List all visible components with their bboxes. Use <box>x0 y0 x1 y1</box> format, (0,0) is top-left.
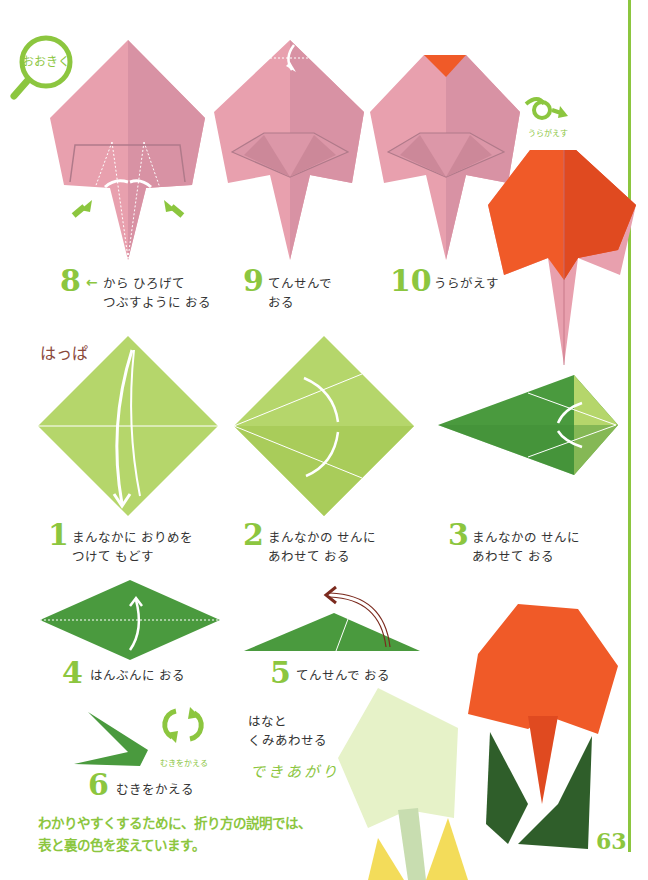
leaf-step-2-text: まんなかの せんに あわせて おる <box>268 528 376 566</box>
step-10-number: 10 <box>390 266 432 296</box>
step-9-number: 9 <box>243 266 264 296</box>
leaf-step-3-diagram <box>438 375 618 475</box>
leaf-step-1-text: まんなかに おりめを つけて もどす <box>72 528 193 566</box>
rotate-icon <box>160 705 210 745</box>
color-note-line-2: 表と裏の色を変えています。 <box>38 834 311 856</box>
leaf-step-3-text: まんなかの せんに あわせて おる <box>472 528 580 566</box>
leaf-step-3-number: 3 <box>448 520 469 550</box>
page-number: 63 <box>596 828 627 854</box>
leaf-step-6-diagram <box>74 712 154 767</box>
leaf-step-1-diagram <box>38 336 218 516</box>
leaf-step-5-text: てんせんで おる <box>296 666 390 685</box>
leaf-step-6-number: 6 <box>88 770 109 800</box>
color-note: わかりやすくするために、折り方の説明では、 表と裏の色を変えています。 <box>38 812 311 856</box>
step-9-text: てんせんで おる <box>268 274 332 312</box>
color-note-line-1: わかりやすくするために、折り方の説明では、 <box>38 812 311 834</box>
rotate-badge-label: むきをかえる <box>160 757 208 768</box>
flip-badge-label: うらがえす <box>528 127 568 138</box>
leaf-step-5-number: 5 <box>270 658 291 688</box>
flip-over-icon <box>522 96 572 122</box>
step-8-number: 8 <box>60 266 81 296</box>
step-8-diagram <box>50 40 210 260</box>
finish-instruction: はなと くみあわせる <box>248 712 327 750</box>
leaf-step-2-diagram <box>234 336 414 516</box>
leaf-step-2-number: 2 <box>243 520 264 550</box>
page-margin-rule <box>628 0 631 852</box>
leaf-step-6-text: むきをかえる <box>116 780 194 799</box>
leaf-step-4-text: はんぶんに おる <box>90 666 185 685</box>
finished-pale-flower <box>338 688 478 880</box>
finish-label: できあがり <box>250 760 340 781</box>
leaf-step-4-number: 4 <box>62 658 83 688</box>
leaf-step-1-number: 1 <box>48 520 69 550</box>
leaf-step-5-diagram <box>244 585 424 655</box>
step-10-text: うらがえす <box>434 274 499 293</box>
step-9-diagram <box>214 40 364 260</box>
arrow-left-icon: ← <box>86 274 98 290</box>
step-8-text: から ひろげて つぶすように おる <box>103 274 211 312</box>
flipped-flower-diagram <box>488 150 638 365</box>
finished-orange-flower <box>468 604 618 854</box>
